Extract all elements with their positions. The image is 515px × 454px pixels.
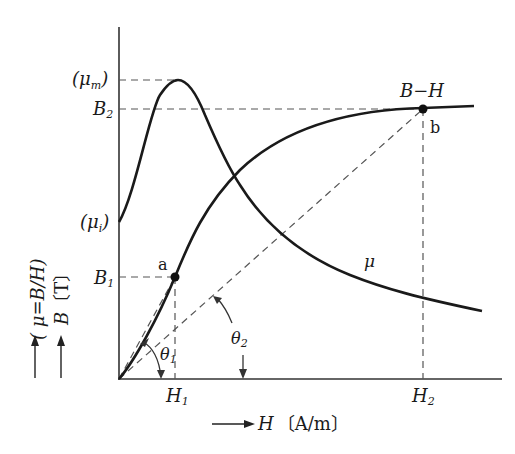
guide-lines	[119, 80, 423, 379]
theta2-label: θ2	[231, 329, 248, 350]
y-axis-title: ( μ=B/H) B〔T〕	[27, 258, 72, 378]
chord-ob	[119, 109, 423, 379]
theta2-arrowhead-bottom	[239, 369, 247, 379]
y-axis-b-label: B〔T〕	[51, 264, 72, 326]
b2-label: B2	[92, 98, 113, 121]
h2-label: H2	[411, 385, 435, 408]
theta1-label: θ1	[160, 345, 177, 366]
mu-i-label: (μi)	[80, 211, 109, 235]
y-axis-b-arrow-icon	[57, 335, 65, 346]
theta2-arc	[217, 298, 232, 323]
b1-label: B1	[93, 267, 114, 290]
x-axis-arrow-icon	[244, 420, 255, 428]
bh-curve	[119, 106, 474, 379]
point-a	[171, 273, 180, 282]
bh-curve-label: B−H	[399, 80, 444, 101]
h1-label: H1	[165, 385, 189, 408]
mu-m-label: (μm)	[72, 68, 108, 92]
y-axis-mu-label: ( μ=B/H)	[27, 258, 48, 340]
point-b	[419, 105, 428, 114]
point-a-label: a	[158, 255, 168, 274]
bh-mu-diagram: (μm) B2 (μi) B1 H1 H2 a b B−H μ θ1 θ2 H〔…	[0, 0, 515, 454]
svg-text:H〔A/m〕: H〔A/m〕	[257, 413, 349, 434]
mu-curve-label: μ	[364, 251, 375, 271]
point-b-label: b	[430, 118, 440, 137]
theta1-arrowhead	[157, 370, 165, 379]
x-axis-title: H〔A/m〕	[212, 413, 349, 434]
